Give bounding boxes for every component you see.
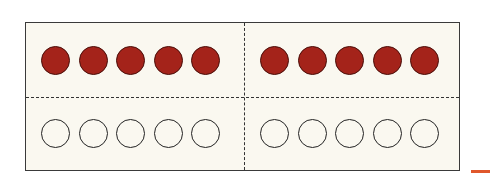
filled-counter-icon: [298, 46, 327, 75]
ten-frame-board: [25, 22, 460, 171]
filled-counter-icon: [79, 46, 108, 75]
filled-counter-icon: [41, 46, 70, 75]
filled-counter-icon: [154, 46, 183, 75]
empty-counter-icon: [79, 119, 108, 148]
horizontal-divider: [26, 97, 459, 98]
empty-counter-icon: [191, 119, 220, 148]
empty-counter-icon: [41, 119, 70, 148]
empty-counter-icon: [335, 119, 364, 148]
filled-counter-icon: [191, 46, 220, 75]
filled-counter-icon: [410, 46, 439, 75]
empty-counter-icon: [298, 119, 327, 148]
accent-line: [471, 170, 490, 173]
empty-counter-icon: [154, 119, 183, 148]
empty-counter-icon: [260, 119, 289, 148]
filled-counter-icon: [116, 46, 145, 75]
empty-counter-icon: [410, 119, 439, 148]
filled-counter-icon: [335, 46, 364, 75]
filled-counter-icon: [373, 46, 402, 75]
empty-counter-icon: [116, 119, 145, 148]
empty-counter-icon: [373, 119, 402, 148]
filled-counter-icon: [260, 46, 289, 75]
